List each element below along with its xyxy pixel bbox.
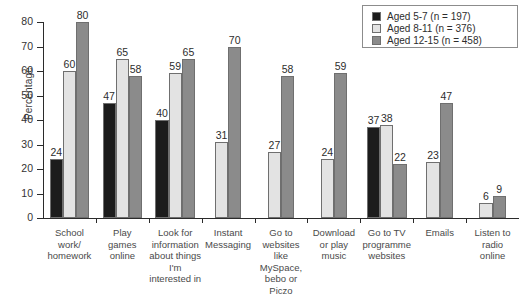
- bar: [479, 203, 492, 218]
- bar: [426, 162, 439, 218]
- y-axis-tick-label: 80: [0, 15, 33, 27]
- legend-label-aged-12-15: Aged 12-15 (n = 458): [387, 35, 482, 46]
- x-axis-tick: [149, 219, 150, 223]
- bar: [268, 152, 281, 218]
- bar: [321, 159, 334, 218]
- y-axis-tick-label: 70: [0, 40, 33, 52]
- category-label: School work/ homework: [39, 227, 100, 262]
- legend-label-aged-5-7: Aged 5-7 (n = 197): [387, 11, 471, 22]
- bar-value-label: 70: [223, 34, 246, 46]
- x-axis-tick: [202, 219, 203, 223]
- legend-item: Aged 5-7 (n = 197): [372, 11, 517, 22]
- x-axis-tick: [466, 219, 467, 223]
- y-axis-tick-label: 60: [0, 64, 33, 76]
- y-axis-tick-label: 0: [0, 211, 33, 223]
- bar: [281, 76, 294, 218]
- bar: [380, 125, 393, 218]
- bar-value-label: 58: [124, 63, 147, 75]
- legend-item: Aged 12-15 (n = 458): [372, 35, 517, 46]
- category-label: Instant Messaging: [198, 227, 259, 250]
- bar: [393, 164, 406, 218]
- bar: [215, 142, 228, 218]
- bar-value-label: 80: [71, 9, 94, 21]
- bar-value-label: 47: [435, 90, 458, 102]
- legend-label-aged-8-11: Aged 8-11 (n = 376): [387, 23, 476, 34]
- bar: [103, 103, 116, 218]
- legend-item: Aged 8-11 (n = 376): [372, 23, 517, 34]
- bar: [367, 127, 380, 218]
- category-label: Download or play music: [303, 227, 364, 262]
- bar-value-label: 22: [388, 151, 411, 163]
- category-label: Emails: [409, 227, 470, 239]
- bar: [63, 71, 76, 218]
- bar: [493, 196, 506, 218]
- bar-value-label: 59: [329, 60, 352, 72]
- bar-value-label: 65: [111, 46, 134, 58]
- legend-swatch-aged-5-7: [372, 12, 381, 21]
- category-label: Go to websites like MySpace, bebo or Pic…: [251, 227, 312, 297]
- bar-chart: Percentage 01020304050607080 24608047655…: [0, 0, 523, 304]
- category-label: Play games online: [92, 227, 153, 262]
- bar-value-label: 65: [177, 46, 200, 58]
- bar-value-label: 58: [276, 63, 299, 75]
- category-label: Go to TV programme websites: [356, 227, 417, 262]
- y-axis-tick-label: 20: [0, 162, 33, 174]
- x-axis-tick: [360, 219, 361, 223]
- bar: [129, 76, 142, 218]
- bar: [228, 47, 241, 219]
- bar: [169, 73, 182, 218]
- y-axis-tick-label: 30: [0, 138, 33, 150]
- bar-value-label: 9: [488, 183, 511, 195]
- bar: [76, 22, 89, 218]
- category-label: Listen to radio online: [462, 227, 523, 262]
- category-label: Look for information about things I'm in…: [145, 227, 206, 285]
- x-axis-tick: [307, 219, 308, 223]
- bar: [334, 73, 347, 218]
- bar: [182, 59, 195, 218]
- chart-legend: Aged 5-7 (n = 197) Aged 8-11 (n = 376) A…: [362, 5, 518, 48]
- x-axis-line: [43, 218, 519, 219]
- plot-area: 2460804765584059653170275824593738222347…: [43, 22, 519, 218]
- x-axis-tick: [96, 219, 97, 223]
- legend-swatch-aged-8-11: [372, 24, 381, 33]
- x-axis-tick: [413, 219, 414, 223]
- bar: [155, 120, 168, 218]
- y-axis-tick-label: 40: [0, 113, 33, 125]
- legend-swatch-aged-12-15: [372, 36, 381, 45]
- bar: [50, 159, 63, 218]
- bar: [116, 59, 129, 218]
- y-axis-tick-label: 50: [0, 89, 33, 101]
- y-axis-tick-label: 10: [0, 187, 33, 199]
- bar-value-label: 38: [375, 112, 398, 124]
- bar: [440, 103, 453, 218]
- x-axis-tick: [255, 219, 256, 223]
